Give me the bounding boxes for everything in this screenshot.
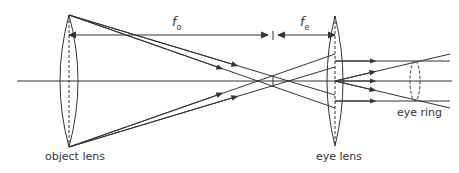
object-lens-label: object lens xyxy=(45,150,105,163)
eye-ring-label: eye ring xyxy=(397,106,442,119)
telescope-diagram xyxy=(0,0,459,173)
eye-lens-label: eye lens xyxy=(316,150,362,163)
fo-label: fo xyxy=(172,14,181,32)
fe-label: fe xyxy=(300,14,310,32)
